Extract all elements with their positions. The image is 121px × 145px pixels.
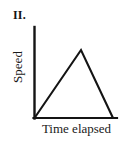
y-axis-label: Speed xyxy=(10,37,26,97)
speed-curve xyxy=(35,50,114,118)
figure-container: II. Speed Time elapsed xyxy=(0,0,121,145)
x-axis-label: Time elapsed xyxy=(34,121,119,137)
